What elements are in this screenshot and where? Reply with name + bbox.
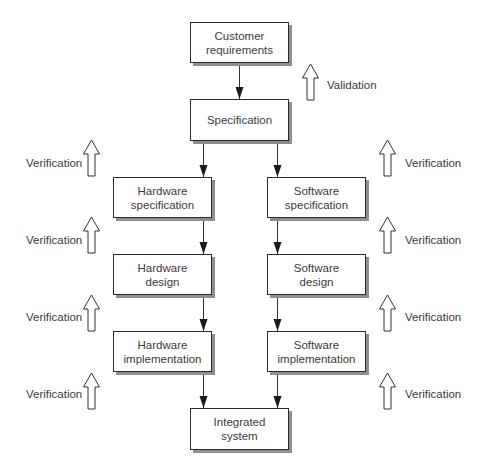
node-label: Integrated [214, 415, 266, 429]
node-hardware-specification: Hardware specification [113, 177, 212, 218]
verification-arrow-icon [84, 373, 100, 409]
node-software-design: Software design [267, 254, 366, 295]
verification-label-left-2: Verification [26, 233, 82, 247]
node-label: implementation [278, 352, 356, 366]
node-software-implementation: Software implementation [267, 331, 366, 372]
node-hardware-design: Hardware design [113, 254, 212, 295]
verification-label-right-2: Verification [405, 233, 461, 247]
node-integrated-system: Integrated system [190, 408, 289, 450]
node-software-specification: Software specification [267, 177, 366, 218]
verification-label-right-3: Verification [405, 310, 461, 324]
verification-arrow-icon [380, 140, 396, 176]
verification-arrow-icon [84, 217, 100, 253]
node-label: system [221, 429, 257, 443]
node-label: requirements [206, 43, 273, 57]
verification-arrow-icon [84, 140, 100, 176]
node-hardware-implementation: Hardware implementation [113, 331, 212, 372]
node-label: implementation [124, 352, 202, 366]
node-specification: Specification [190, 99, 289, 141]
node-label: Hardware [138, 338, 188, 352]
verification-label-left-1: Verification [26, 156, 82, 170]
node-label: design [146, 275, 180, 289]
verification-arrow-icon [380, 373, 396, 409]
node-label: Software [294, 184, 339, 198]
validation-label: Validation [327, 78, 377, 92]
node-label: design [300, 275, 334, 289]
verification-label-right-1: Verification [405, 156, 461, 170]
node-label: Hardware [138, 184, 188, 198]
node-label: Specification [207, 113, 272, 127]
node-label: specification [285, 198, 348, 212]
validation-arrow-icon [303, 64, 319, 100]
node-customer-requirements: Customer requirements [190, 22, 289, 63]
node-label: Hardware [138, 261, 188, 275]
verification-arrow-icon [380, 217, 396, 253]
node-label: specification [131, 198, 194, 212]
verification-label-left-4: Verification [26, 387, 82, 401]
v-model-diagram: Customer requirements Specification Hard… [0, 0, 479, 473]
node-label: Software [294, 261, 339, 275]
verification-label-right-4: Verification [405, 387, 461, 401]
verification-label-left-3: Verification [26, 310, 82, 324]
verification-arrow-icon [84, 295, 100, 331]
node-label: Software [294, 338, 339, 352]
node-label: Customer [215, 29, 265, 43]
verification-arrow-icon [380, 295, 396, 331]
